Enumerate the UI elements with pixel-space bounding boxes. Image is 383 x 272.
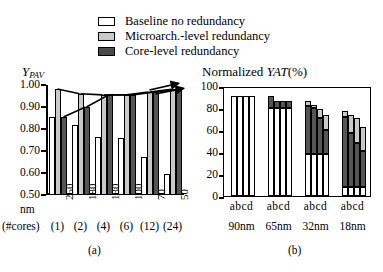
legend-swatch-baseline-icon [98,17,115,26]
panel-b-title-italic: YAT [267,64,288,79]
panel-b-group-label: 32nm [297,220,334,232]
panel-b: Normalized YAT(%) 020406080100 abcdabcda… [190,60,383,272]
panel-a-x-tick-label-node: 250 [63,184,75,201]
legend-item-microarch: Microarch.-level redundancy [98,29,270,43]
panel-b-y-tick-label: 80 [190,102,218,114]
panel-b-group-label: 18nm [334,220,371,232]
panel-a-x-tick-label-cores: (24) [161,220,185,232]
panel-b-group-label: 65nm [260,220,297,232]
panel-a-x-tick-label-node: 70 [155,189,167,200]
panel-b-bar-segment [249,96,255,196]
panel-a-y-tick-label: 0.50 [2,188,40,200]
panel-a-y-tick-label: 0.60 [2,166,40,178]
panel-b-bar-group-letters: abcd [265,200,293,212]
panel-b-bar-segment [311,105,317,108]
panel-b-group-label: 90nm [223,220,260,232]
legend-label-microarch: Microarch.-level redundancy [125,30,270,43]
panel-a-x-tick-label-node: 180 [86,184,98,201]
panel-b-bar-segment [323,154,329,196]
panel-a-y-tick-label: 1.00 [2,78,40,90]
panel-b-bar-segment [323,115,329,130]
legend-item-baseline: Baseline no redundancy [98,14,270,28]
panel-b-bar-segment [286,108,292,196]
panel-a-x-tick-label-cores: (12) [138,220,162,232]
panel-b-y-tick [219,87,224,89]
panel-b-bar-segment [360,187,366,196]
panel-b-y-tick-label: 40 [190,146,218,158]
legend-label-core: Core-level redundancy [125,45,239,58]
panel-b-bar-group-letters: abcd [339,200,367,212]
panel-b-stacked-bar [249,96,255,196]
panel-a-x-tick-label-node: 130 [109,184,121,201]
panel-b-y-tick-label: 0 [190,190,218,202]
panel-a-caption: (a) [88,244,101,256]
panel-b-bar-group-letters: abcd [228,200,256,212]
panel-a-row-label-cores: (#cores) [2,220,40,232]
panel-b-stacked-bar [286,101,292,196]
panel-a-x-tick-label-cores: (6) [115,220,139,232]
panel-b-y-tick-label: 60 [190,124,218,136]
panel-a-annotation-arrows-icon [46,85,184,195]
panel-b-title-suffix: (%) [288,64,308,79]
panel-a-y-tick-label: 0.90 [2,100,40,112]
panel-b-bar-group-letters: abcd [302,200,330,212]
figure-root: Baseline no redundancy Microarch.-level … [0,0,383,272]
panel-b-bar-segment [323,130,329,154]
panel-a-y-tick-label: 0.80 [2,122,40,134]
panel-b-caption: (b) [288,244,301,256]
panel-a-plot-area [46,85,184,195]
panel-b-bar-segment [360,127,366,151]
panel-a: YPAV 0.500.600.700.800.901.00 nm (#cores… [0,60,195,272]
panel-a-x-tick-label-node: 50 [178,189,190,200]
panel-a-x-tick-label-cores: (1) [46,220,70,232]
panel-a-x-tick-label-cores: (4) [92,220,116,232]
panel-b-y-tick [219,175,224,177]
legend-label-baseline: Baseline no redundancy [125,15,245,28]
panel-b-stacked-bar [323,115,329,196]
panel-b-plot-area [223,87,371,197]
panel-b-y-tick [219,109,224,111]
panel-b-y-tick [219,197,224,199]
panel-b-y-tick [219,131,224,133]
panel-a-x-tick-label-node: 100 [132,184,144,201]
panel-a-x-tick-label-cores: (2) [69,220,93,232]
panel-a-y-tick-label: 0.70 [2,144,40,156]
panel-b-y-tick-label: 20 [190,168,218,180]
panel-b-title: Normalized YAT(%) [202,64,307,80]
legend-swatch-core-icon [98,47,115,56]
panel-b-title-prefix: Normalized [202,64,267,79]
panel-b-y-tick [219,153,224,155]
legend: Baseline no redundancy Microarch.-level … [98,14,270,59]
legend-swatch-microarch-icon [98,32,115,41]
panel-b-bar-segment [286,101,292,108]
panel-b-bar-segment [360,151,366,187]
legend-item-core: Core-level redundancy [98,44,270,58]
panel-b-y-tick-label: 100 [190,80,218,92]
panel-a-row-label-nm: nm [20,203,35,215]
panel-b-stacked-bar [360,127,366,196]
